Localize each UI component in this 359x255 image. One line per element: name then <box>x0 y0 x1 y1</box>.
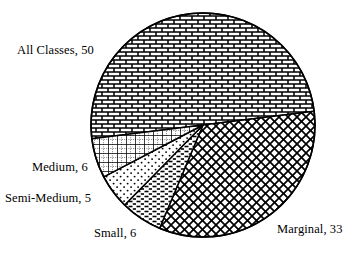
pie-chart-figure: All Classes, 50 Marginal, 33 Small, 6 Se… <box>0 0 359 255</box>
pie-chart-canvas <box>0 0 359 255</box>
pie-slices-group <box>91 13 315 237</box>
slice-label-semi-medium: Semi-Medium, 5 <box>5 191 91 206</box>
slice-label-medium: Medium, 6 <box>32 160 88 175</box>
slice-label-marginal: Marginal, 33 <box>277 222 343 237</box>
slice-label-all-classes: All Classes, 50 <box>17 43 94 58</box>
slice-label-small: Small, 6 <box>94 226 136 241</box>
